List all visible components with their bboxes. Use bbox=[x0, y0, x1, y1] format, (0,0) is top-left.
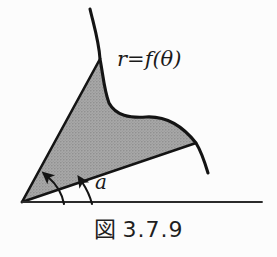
caption-symbol: 図 bbox=[94, 217, 117, 242]
curve-equation-label: r=f(θ) bbox=[117, 47, 181, 71]
angle-label: a bbox=[95, 170, 107, 194]
shaded-region bbox=[22, 59, 196, 202]
figure-container: r=f(θ) a 図3.7.9 bbox=[0, 0, 277, 257]
lower-angle-arrow bbox=[82, 182, 92, 204]
figure-caption: 図3.7.9 bbox=[0, 211, 277, 243]
caption-number: 3.7.9 bbox=[123, 217, 184, 242]
